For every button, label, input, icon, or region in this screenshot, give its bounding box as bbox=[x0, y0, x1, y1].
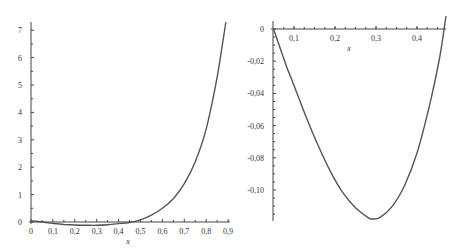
y-tick-label: 0 bbox=[260, 25, 264, 34]
x-tick-label: 0,3 bbox=[92, 227, 102, 236]
y-tick-label: -0,04 bbox=[247, 89, 264, 98]
x-tick-label: 0,4 bbox=[114, 227, 124, 236]
y-tick-label: 3 bbox=[18, 136, 22, 145]
y-tick-label: 5 bbox=[18, 81, 22, 90]
y-tick-label: -0,02 bbox=[247, 57, 264, 66]
y-tick-label: -0,10 bbox=[247, 186, 264, 195]
y-tick-label: -0,08 bbox=[247, 154, 264, 163]
y-tick-label: 2 bbox=[18, 163, 22, 172]
x-tick-label: 0,4 bbox=[412, 34, 422, 43]
figure: 0123456700,10,20,30,40,50,60,70,80,9x 0-… bbox=[0, 0, 460, 251]
x-axis-label: x bbox=[346, 44, 351, 53]
y-tick-label: 1 bbox=[18, 191, 22, 200]
x-tick-label: 0,7 bbox=[179, 227, 189, 236]
y-tick-label: 6 bbox=[18, 54, 22, 63]
function-curve bbox=[274, 16, 447, 219]
x-tick-label: 0,3 bbox=[371, 34, 381, 43]
x-tick-label: 0,5 bbox=[136, 227, 146, 236]
y-tick-label: 4 bbox=[18, 108, 22, 117]
y-tick-label: -0,06 bbox=[247, 122, 264, 131]
x-tick-label: 0,8 bbox=[201, 227, 211, 236]
y-tick-label: 7 bbox=[18, 26, 22, 35]
function-curve bbox=[31, 22, 226, 225]
x-tick-label: 0,1 bbox=[289, 34, 299, 43]
right-plot: 0-0,02-0,04-0,06-0,08-0,100,10,20,30,4x bbox=[247, 16, 446, 221]
y-tick-label: 0 bbox=[18, 218, 22, 227]
left-plot: 0123456700,10,20,30,40,50,60,70,80,9x bbox=[18, 22, 233, 246]
x-tick-label: 0,1 bbox=[48, 227, 58, 236]
x-tick-label: 0,2 bbox=[330, 34, 340, 43]
x-tick-label: 0 bbox=[29, 227, 33, 236]
x-tick-label: 0,9 bbox=[223, 227, 233, 236]
x-tick-label: 0,2 bbox=[70, 227, 80, 236]
x-axis-label: x bbox=[125, 237, 130, 246]
x-tick-label: 0,6 bbox=[157, 227, 167, 236]
